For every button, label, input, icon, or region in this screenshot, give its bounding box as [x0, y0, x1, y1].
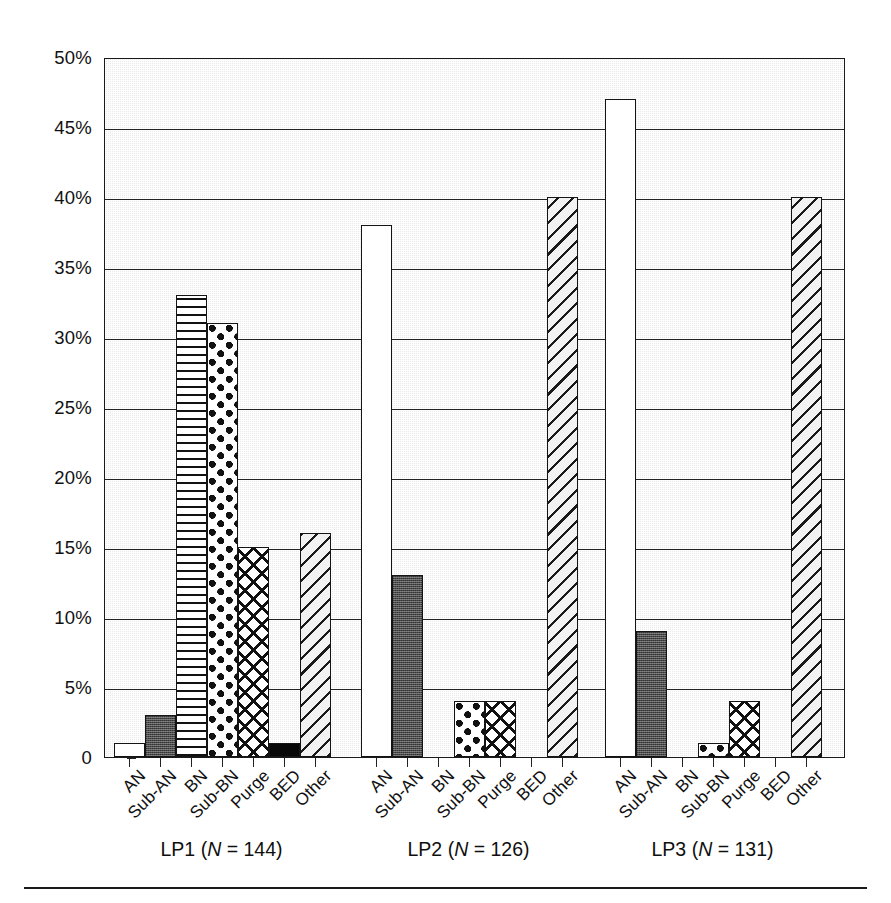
x-axis-tick-mark [376, 758, 377, 767]
x-axis-tick-mark [438, 758, 439, 767]
bar-lp3-sub-bn [698, 743, 729, 757]
x-axis-tick-mark [407, 758, 408, 767]
y-axis-tick-label: 35% [38, 257, 92, 279]
bar-lp2-sub-an [392, 575, 423, 757]
y-axis-tick-label: 45% [38, 117, 92, 139]
x-axis-tick-mark [469, 758, 470, 767]
group-label-n-symbol: N [454, 838, 468, 860]
bar-lp3-sub-an [636, 631, 667, 757]
bar-lp1-sub-bn [207, 323, 238, 757]
bar-lp1-sub-an [145, 715, 176, 757]
y-axis-tick-label: 25% [38, 397, 92, 419]
group-label-n-symbol: N [698, 838, 712, 860]
bottom-divider-rule [24, 887, 867, 889]
group-label-lp2: LP2 (N = 126) [408, 838, 530, 861]
x-axis-tick-mark [744, 758, 745, 767]
group-label-suffix: = 131) [712, 838, 773, 860]
figure-bar-chart: 05%10%15%20%25%30%35%40%45%50% ANSub-ANB… [0, 0, 891, 903]
gridline-35 [105, 269, 844, 270]
bar-lp2-other [547, 197, 578, 757]
x-axis-tick-mark [531, 758, 532, 767]
y-axis-tick-label: 20% [38, 467, 92, 489]
group-label-n-symbol: N [207, 838, 221, 860]
bar-lp3-other [791, 197, 822, 757]
y-axis-tick-label: 5% [38, 677, 92, 699]
plot-area [104, 58, 845, 758]
x-axis-tick-mark [775, 758, 776, 767]
bar-lp2-an [361, 225, 392, 757]
y-axis-tick-label: 30% [38, 327, 92, 349]
group-label-prefix: LP2 ( [408, 838, 455, 860]
x-axis-tick-mark [682, 758, 683, 767]
y-axis-tick-label: 10% [38, 607, 92, 629]
group-label-lp3: LP3 (N = 131) [652, 838, 774, 861]
y-axis-tick-label: 50% [38, 47, 92, 69]
bar-lp2-purge [485, 701, 516, 757]
x-axis-tick-mark [191, 758, 192, 767]
bar-lp1-an [114, 743, 145, 757]
x-axis-tick-mark [222, 758, 223, 767]
group-label-lp1: LP1 (N = 144) [161, 838, 283, 861]
bar-lp3-an [605, 99, 636, 757]
y-axis-tick-label: 40% [38, 187, 92, 209]
x-axis-tick-mark [129, 758, 130, 767]
y-axis-tick-label: 15% [38, 537, 92, 559]
group-label-suffix: = 126) [468, 838, 529, 860]
x-axis-tick-mark [253, 758, 254, 767]
x-axis-tick-mark [160, 758, 161, 767]
x-axis-tick-mark [651, 758, 652, 767]
bar-lp2-sub-bn [454, 701, 485, 757]
x-axis-tick-mark [806, 758, 807, 767]
x-axis-tick-mark [284, 758, 285, 767]
x-axis-tick-mark [315, 758, 316, 767]
bar-lp3-purge [729, 701, 760, 757]
bar-lp1-purge [238, 547, 269, 757]
y-axis: 05%10%15%20%25%30%35%40%45%50% [32, 0, 92, 903]
bar-lp1-bn [176, 295, 207, 757]
x-axis-tick-mark [500, 758, 501, 767]
bar-lp1-bed [269, 743, 300, 757]
bar-lp1-other [300, 533, 331, 757]
x-axis-tick-mark [620, 758, 621, 767]
gridline-45 [105, 129, 844, 130]
x-axis-tick-mark [562, 758, 563, 767]
group-label-suffix: = 144) [221, 838, 282, 860]
group-label-prefix: LP3 ( [652, 838, 699, 860]
x-axis-tick-mark [713, 758, 714, 767]
group-label-prefix: LP1 ( [161, 838, 208, 860]
gridline-40 [105, 199, 844, 200]
y-axis-tick-label: 0 [38, 747, 92, 769]
